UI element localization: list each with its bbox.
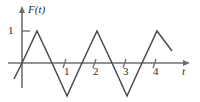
y-axis [19, 6, 25, 88]
x-axis-arrow-icon [183, 60, 190, 66]
x-axis [8, 60, 190, 66]
chart-figure: 1 1 2 3 4 F(t) t [0, 0, 200, 102]
y-axis-arrow-icon [19, 6, 25, 13]
chart-plot-area [0, 0, 200, 102]
